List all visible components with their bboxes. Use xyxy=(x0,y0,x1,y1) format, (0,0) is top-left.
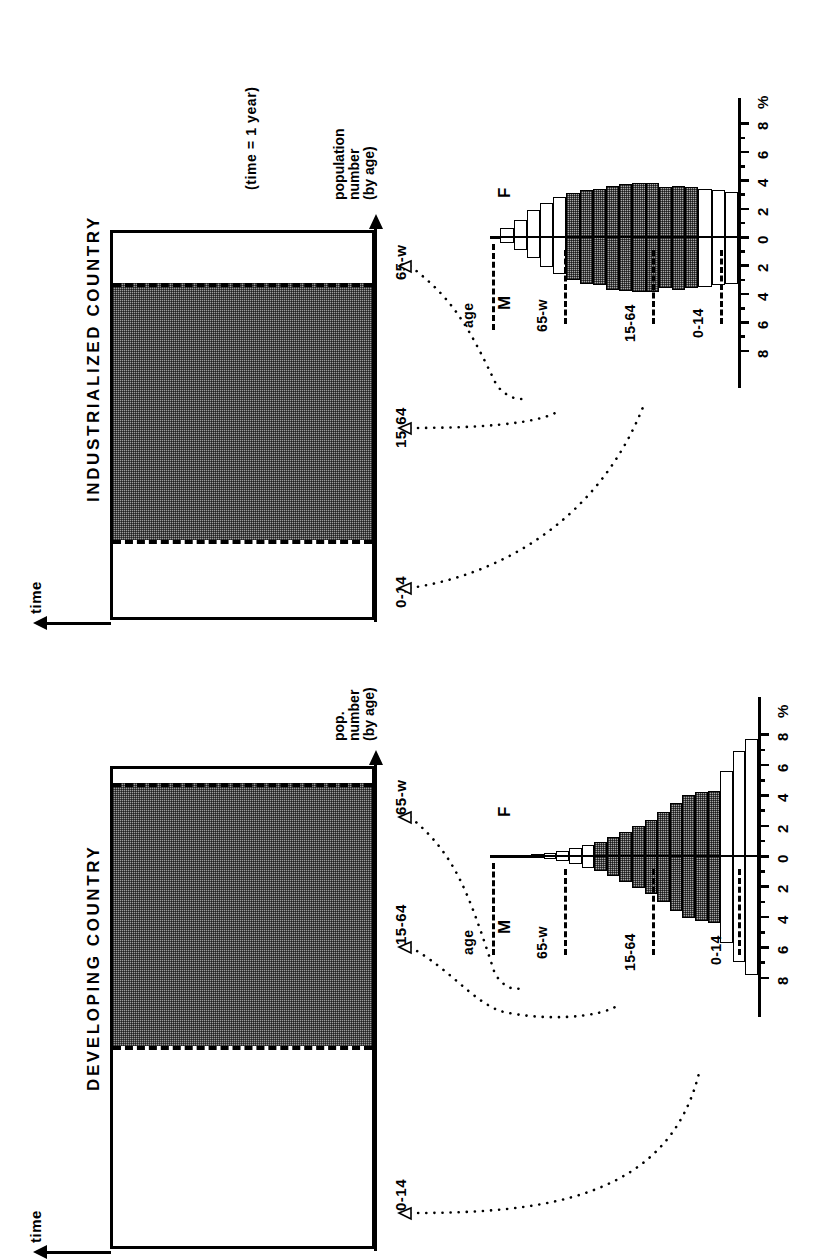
axis-tick-minor xyxy=(758,779,765,782)
axis-tick-major xyxy=(758,764,769,767)
segment-65w xyxy=(113,769,372,783)
axis-tick-label: 4 xyxy=(774,794,791,802)
axis-tick-major xyxy=(738,293,749,296)
pyramid-bar-female xyxy=(582,845,595,856)
industrialized-time-axis-line xyxy=(45,622,111,625)
pyramid-bar-male xyxy=(685,237,698,288)
pyramid-bar-male xyxy=(632,856,645,888)
pyramid-bar-female xyxy=(745,739,758,856)
axis-tick-minor xyxy=(758,809,765,812)
pyramid-bar-male xyxy=(720,856,733,943)
axis-tick-minor xyxy=(758,749,765,752)
axis-tick-minor xyxy=(738,279,745,282)
axis-tick-major xyxy=(738,208,749,211)
pyramid-bar-female xyxy=(670,803,683,856)
box-catlabel-0-14: 0-14 xyxy=(392,576,409,608)
developing-value-arrowhead xyxy=(369,750,383,765)
pyramid-bar-male xyxy=(619,856,632,882)
axis-tick-major xyxy=(738,236,749,239)
pyramid-label-M: M xyxy=(495,920,515,934)
pyramid-bar-female xyxy=(657,812,670,856)
pyramid-bar-male xyxy=(698,237,711,287)
box-catlabel-15-64: 15-64 xyxy=(392,904,409,945)
pyramid-bar-female xyxy=(540,203,553,237)
pyramid-bar-male xyxy=(582,856,595,868)
pyramid-group-label-15-64: 15-64 xyxy=(622,933,638,971)
pyramid-group-dash-65w xyxy=(564,869,567,955)
developing-population-pyramid: 864202468% M F age 65-w 15-64 0-14 xyxy=(470,659,770,1019)
axis-tick-label: 0 xyxy=(754,236,771,244)
axis-tick-major xyxy=(738,321,749,324)
axis-tick-major xyxy=(758,825,769,828)
developing-time-arrowhead xyxy=(33,1245,47,1259)
axis-tick-minor xyxy=(758,901,765,904)
axis-tick-label: 2 xyxy=(754,264,771,272)
industrialized-value-arrowhead xyxy=(369,214,383,229)
pyramid-group-label-0-14: 0-14 xyxy=(708,935,724,965)
pyramid-bar-female xyxy=(712,190,725,237)
pyramid-bar-male xyxy=(569,856,582,864)
pyramid-bar-male xyxy=(670,856,683,911)
pyramid-label-M: M xyxy=(495,296,515,310)
pyramid-bar-female xyxy=(514,220,527,237)
axis-tick-major xyxy=(758,855,769,858)
axis-tick-label: 6 xyxy=(754,321,771,329)
pyramid-bar-male xyxy=(606,237,619,290)
pyramid-bar-male xyxy=(527,237,540,258)
pyramid-group-dash-15-64 xyxy=(652,250,655,324)
industrialized-age-structure-box xyxy=(110,230,375,620)
pyramid-bar-female xyxy=(566,193,579,237)
industrialized-time-arrowhead xyxy=(33,616,47,630)
axis-tick-label: 8 xyxy=(774,976,791,984)
pyramid-bar-female xyxy=(593,189,606,237)
pyramid-bar-male xyxy=(725,237,738,284)
axis-tick-major xyxy=(758,885,769,888)
pyramid-percent-axis xyxy=(738,98,741,388)
developing-title: DEVELOPING COUNTRY xyxy=(84,845,104,1091)
axis-tick-minor xyxy=(758,840,765,843)
industrialized-value-axis-caption: population number (by age) xyxy=(332,128,377,200)
axis-tick-label: 2 xyxy=(754,207,771,215)
pyramid-bar-female xyxy=(619,184,632,237)
pyramid-bar-male xyxy=(556,856,569,861)
developing-value-axis xyxy=(374,764,377,1251)
axis-tick-major xyxy=(738,264,749,267)
pyramid-bar-female xyxy=(500,228,513,237)
axis-tick-label: 4 xyxy=(754,179,771,187)
axis-tick-major xyxy=(758,733,769,736)
pyramid-bar-female xyxy=(645,820,658,856)
divider-65w xyxy=(113,783,372,787)
axis-tick-label: 6 xyxy=(774,763,791,771)
pyramid-bar-female xyxy=(607,837,620,856)
industrialized-time-label: time xyxy=(27,581,44,614)
pyramid-group-label-65w: 65-w xyxy=(534,926,550,959)
value-axis-line1: pop. xyxy=(332,687,347,741)
pyramid-bar-male xyxy=(695,856,708,921)
pyramid-group-label-0-14: 0-14 xyxy=(690,308,706,338)
pyramid-bar-female xyxy=(698,189,711,237)
box-catlabel-65w: 65-w xyxy=(392,780,409,815)
axis-tick-label: 0 xyxy=(774,855,791,863)
value-axis-line2: number xyxy=(347,128,362,200)
axis-tick-minor xyxy=(738,335,745,338)
divider-65w xyxy=(113,283,372,287)
pyramid-bar-male xyxy=(708,856,721,923)
axis-tick-major xyxy=(738,122,749,125)
segment-15-64 xyxy=(113,783,372,1045)
pyramid-age-dash xyxy=(492,244,495,330)
axis-tick-major xyxy=(738,151,749,154)
axis-tick-minor xyxy=(758,961,765,964)
axis-tick-major xyxy=(738,350,749,353)
pyramid-bar-male xyxy=(580,237,593,284)
pyramid-bar-female xyxy=(695,792,708,856)
pyramid-bar-female xyxy=(531,854,544,856)
pyramid-bar-male xyxy=(544,856,557,859)
pyramid-bar-female xyxy=(682,795,695,856)
industrialized-value-axis xyxy=(374,228,377,622)
pyramid-group-label-15-64: 15-64 xyxy=(622,304,638,342)
developing-time-label: time xyxy=(27,1210,44,1243)
time-unit-note: (time = 1 year) xyxy=(243,86,259,190)
pyramid-group-label-65w: 65-w xyxy=(534,299,550,332)
pyramid-group-dash-0-14 xyxy=(738,869,741,955)
axis-tick-label: 6 xyxy=(774,946,791,954)
